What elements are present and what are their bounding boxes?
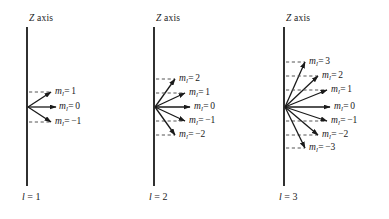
m-equals: =	[343, 101, 349, 111]
m-equals: =	[64, 86, 70, 96]
m-value: −2	[194, 129, 206, 139]
panel-label-var-1: l	[22, 191, 25, 202]
m-equals: =	[331, 129, 337, 139]
panel-label-value-3: 3	[292, 191, 297, 202]
m-value: 0	[209, 101, 215, 111]
angular-momentum-vector-arrow	[28, 107, 51, 122]
panel-label-value-2: 2	[162, 191, 167, 202]
m-symbol: m	[331, 115, 338, 125]
vector-model-figure: Z axis Z axis Z axis l = 1 l = 2 l = 3 m…	[0, 0, 389, 219]
panel-label-eq-2: =	[154, 191, 160, 202]
panel-label-value-1: 1	[35, 191, 40, 202]
axis-title-panel-3: Z axis	[286, 13, 310, 23]
axis-title-panel-1: Z axis	[29, 13, 53, 23]
axis-title-panel-2: Z axis	[156, 13, 180, 23]
m-value: 0	[349, 101, 355, 111]
m-label: ml=3	[309, 56, 330, 69]
m-equals: =	[198, 87, 204, 97]
m-value: 2	[194, 73, 200, 83]
axis-title-rest-2: axis	[161, 13, 180, 23]
m-value: −1	[346, 115, 358, 125]
m-label: ml=−1	[189, 115, 215, 128]
m-value: 1	[70, 86, 76, 96]
m-label: ml=0	[59, 101, 80, 114]
m-equals: =	[188, 129, 194, 139]
m-equals: =	[318, 56, 324, 66]
m-equals: =	[68, 101, 74, 111]
panel-label-var-3: l	[279, 191, 282, 202]
m-value: −3	[324, 142, 336, 152]
m-label: ml=1	[331, 84, 352, 97]
m-symbol: m	[322, 70, 329, 80]
panel-label-l3: l = 3	[279, 191, 297, 202]
panel-label-eq-1: =	[27, 191, 33, 202]
m-label: ml=1	[55, 86, 76, 99]
m-symbol: m	[309, 142, 316, 152]
m-value: −1	[204, 115, 216, 125]
m-value: 1	[204, 87, 210, 97]
m-value: −1	[70, 116, 82, 126]
m-value: −2	[337, 129, 349, 139]
m-symbol: m	[55, 116, 62, 126]
m-label: ml=−2	[179, 129, 205, 142]
panel-label-l2: l = 2	[149, 191, 167, 202]
m-symbol: m	[189, 87, 196, 97]
m-value: 1	[346, 84, 352, 94]
m-equals: =	[340, 115, 346, 125]
m-label: ml=0	[194, 101, 215, 114]
axis-title-rest-1: axis	[34, 13, 53, 23]
m-label: ml=1	[189, 87, 210, 100]
m-label: ml=2	[179, 73, 200, 86]
m-label: ml=−1	[331, 115, 357, 128]
m-symbol: m	[59, 101, 66, 111]
m-symbol: m	[194, 101, 201, 111]
m-equals: =	[188, 73, 194, 83]
m-value: 3	[324, 56, 330, 66]
m-symbol: m	[189, 115, 196, 125]
m-label: ml=2	[322, 70, 343, 83]
m-symbol: m	[331, 84, 338, 94]
angular-momentum-vector-arrow	[285, 107, 318, 135]
m-value: 2	[337, 70, 343, 80]
panel-label-l1: l = 1	[22, 191, 40, 202]
m-symbol: m	[334, 101, 341, 111]
m-symbol: m	[309, 56, 316, 66]
m-equals: =	[203, 101, 209, 111]
m-symbol: m	[179, 129, 186, 139]
panel-label-var-2: l	[149, 191, 152, 202]
m-symbol: m	[179, 73, 186, 83]
m-label: ml=−2	[322, 129, 348, 142]
m-label: ml=−3	[309, 142, 335, 155]
m-symbol: m	[322, 129, 329, 139]
m-equals: =	[64, 116, 70, 126]
m-value: 0	[74, 101, 80, 111]
angular-momentum-vector-arrow	[28, 92, 51, 107]
m-label: ml=0	[334, 101, 355, 114]
m-symbol: m	[55, 86, 62, 96]
m-equals: =	[318, 142, 324, 152]
panel-label-eq-3: =	[284, 191, 290, 202]
m-equals: =	[340, 84, 346, 94]
m-label: ml=−1	[55, 116, 81, 129]
angular-momentum-vector-arrow	[285, 76, 318, 107]
m-equals: =	[198, 115, 204, 125]
axis-title-rest-3: axis	[291, 13, 310, 23]
m-equals: =	[331, 70, 337, 80]
